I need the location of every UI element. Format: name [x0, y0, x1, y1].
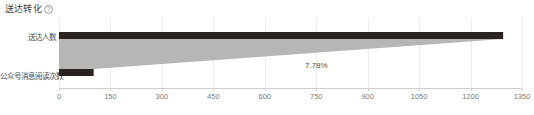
x-axis-tick-mark — [522, 88, 523, 91]
x-axis-tick-label: 300 — [156, 92, 169, 102]
x-axis-tick-mark — [368, 88, 369, 91]
page-title: 送达转化 — [5, 3, 42, 15]
x-axis-tick-label: 600 — [259, 92, 272, 102]
conversion-rate-label: 7.78% — [305, 60, 328, 71]
x-axis-tick-mark — [265, 88, 266, 91]
x-axis-tick-label: 1200 — [462, 92, 479, 102]
funnel-bar-delivered — [59, 32, 503, 39]
x-axis-tick-label: 1050 — [411, 92, 428, 102]
funnel-bar-read — [59, 69, 94, 76]
x-axis-tick-mark — [162, 88, 163, 91]
x-axis-tick-mark — [419, 88, 420, 91]
x-axis-tick-label: 900 — [361, 92, 374, 102]
x-axis-tick-mark — [110, 88, 111, 91]
funnel-graphic — [59, 18, 522, 88]
x-axis-tick-mark — [471, 88, 472, 91]
x-axis-tick-mark — [213, 88, 214, 91]
x-axis-line — [59, 88, 522, 89]
funnel-body — [59, 39, 503, 69]
x-axis-tick-label: 450 — [207, 92, 220, 102]
x-axis-tick-label: 150 — [104, 92, 117, 102]
category-label-read: 公众号消息阅读次数 — [0, 72, 56, 82]
delivery-conversion-funnel-widget: 送达转化 ? 送达人数 公众号消息阅读次数 7.78% 015030045060… — [0, 0, 534, 115]
x-axis-tick-label: 0 — [57, 92, 61, 102]
x-axis-tick-label: 750 — [310, 92, 323, 102]
x-axis-tick-mark — [316, 88, 317, 91]
x-axis-tick-label: 1350 — [514, 92, 531, 102]
x-axis-tick-mark — [59, 88, 60, 91]
widget-header: 送达转化 ? — [5, 3, 53, 15]
gridline — [522, 18, 523, 88]
help-circle-icon[interactable]: ? — [44, 5, 53, 14]
category-label-delivered: 送达人数 — [0, 33, 56, 43]
